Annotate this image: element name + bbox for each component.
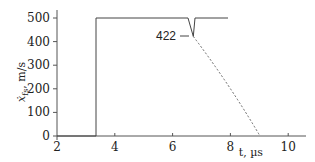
x-tick-6: 6 xyxy=(169,140,177,154)
y-tick-400: 400 xyxy=(27,35,50,49)
y-tick-labels: 0 100 200 300 400 500 xyxy=(27,11,50,143)
y-tick-0: 0 xyxy=(42,129,50,143)
annotation-422: 422 xyxy=(156,29,176,43)
x-tick-2: 2 xyxy=(53,140,61,154)
y-tick-300: 300 xyxy=(27,58,50,72)
x-tick-8: 8 xyxy=(227,140,235,154)
y-axis-label-unit: , m/s xyxy=(15,62,28,89)
y-tick-500: 500 xyxy=(27,11,50,25)
y-axis-label-sub: fs xyxy=(21,89,30,96)
x-axis-label: t, µs xyxy=(239,146,264,159)
extrapolated-series xyxy=(193,36,260,136)
measured-series xyxy=(57,18,228,136)
y-axis-label: ẋfs, m/s xyxy=(15,62,30,102)
x-tick-10: 10 xyxy=(281,140,296,154)
y-tick-100: 100 xyxy=(27,105,50,119)
y-ticks xyxy=(53,18,57,136)
chart: 0 100 200 300 400 500 2 4 6 8 10 t, µs ẋ… xyxy=(0,0,315,162)
y-tick-200: 200 xyxy=(27,82,50,96)
x-tick-4: 4 xyxy=(111,140,119,154)
